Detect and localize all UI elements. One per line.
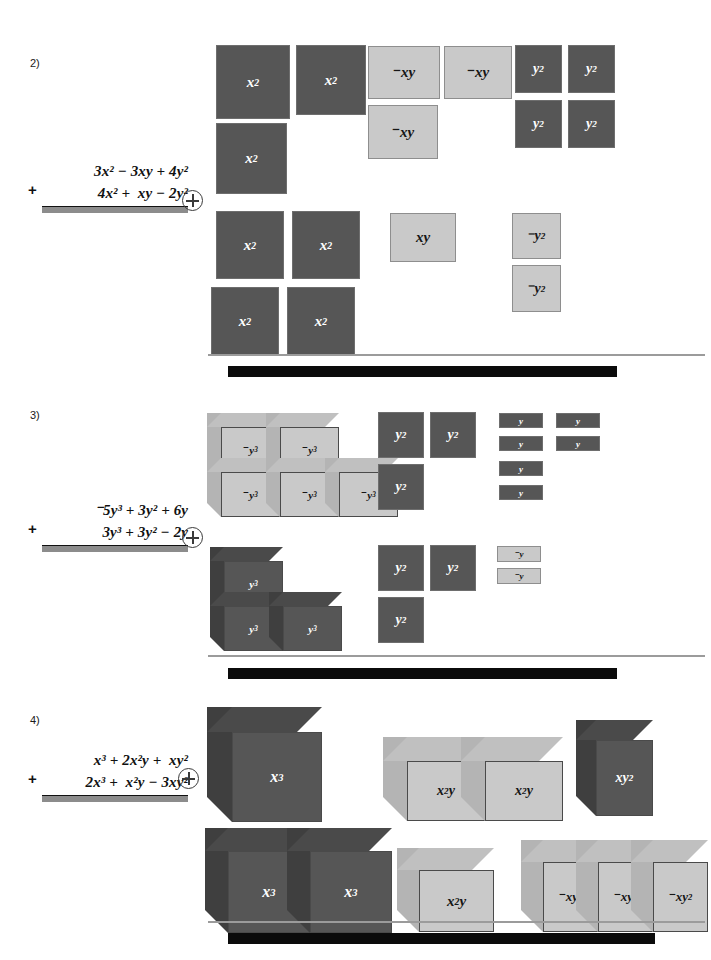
- algebra-block[interactable]: xy2: [576, 720, 653, 816]
- block-front-face: y3: [283, 606, 342, 651]
- expression-answer-bar-2: [42, 206, 188, 213]
- algebra-tile[interactable]: ⁻y: [497, 546, 541, 562]
- algebra-tile[interactable]: xy: [390, 213, 456, 262]
- algebra-tile[interactable]: y2: [378, 412, 424, 458]
- expression-answer-bar-4: [42, 795, 188, 802]
- block-front-face: xy2: [596, 740, 653, 816]
- circled-plus-icon-3: [182, 527, 203, 548]
- problem-number-3: 3): [30, 409, 40, 421]
- algebra-tile[interactable]: y: [499, 461, 543, 476]
- algebra-tile[interactable]: ⁻y2: [512, 265, 561, 312]
- expression-bottom-line-4: 2x³ + x²y − 3xy²: [42, 772, 188, 794]
- algebra-tile[interactable]: ⁻xy: [368, 46, 440, 99]
- algebra-tile[interactable]: y2: [378, 597, 424, 643]
- algebra-block[interactable]: x3: [207, 707, 322, 822]
- algebra-tile[interactable]: y2: [515, 100, 562, 148]
- algebra-block[interactable]: x3: [287, 828, 392, 933]
- algebra-tile[interactable]: x2: [296, 45, 366, 115]
- separator-thin-line: [208, 921, 705, 923]
- algebra-tile[interactable]: y2: [378, 545, 424, 591]
- expression-rows: + x³ + 2x²y + xy² 2x³ + x²y − 3xy²: [28, 750, 188, 802]
- worksheet-page: 2) + 3x² − 3xy + 4y² 4x² + xy − 2y² x2x2…: [0, 0, 711, 960]
- expression-block-3: + ⁻5y³ + 3y² + 6y 3y³ + 3y² − 2y: [28, 500, 188, 552]
- block-front-face: x3: [232, 732, 322, 822]
- algebra-tile[interactable]: y2: [378, 464, 424, 510]
- expression-bottom-line-2: 4x² + xy − 2y²: [42, 183, 188, 205]
- algebra-block[interactable]: ⁻xy2: [631, 840, 708, 932]
- separator-thick-bar: [228, 366, 617, 377]
- problem-number-2: 2): [30, 57, 40, 69]
- algebra-tile[interactable]: y: [556, 413, 600, 428]
- algebra-tile[interactable]: y: [556, 436, 600, 451]
- algebra-tile[interactable]: ⁻y: [497, 568, 541, 584]
- expression-answer-bar-3: [42, 545, 188, 552]
- separator-thick-bar: [228, 933, 655, 944]
- expression-block-2: + 3x² − 3xy + 4y² 4x² + xy − 2y²: [28, 161, 188, 213]
- expression-bottom-line-3: 3y³ + 3y² − 2y: [42, 522, 188, 544]
- expression-top-line-3: ⁻5y³ + 3y² + 6y: [42, 500, 188, 522]
- algebra-tile[interactable]: y: [499, 436, 543, 451]
- algebra-block[interactable]: y3: [269, 592, 342, 651]
- block-front-face: x2y: [485, 761, 563, 821]
- algebra-tile[interactable]: ⁻xy: [368, 105, 438, 159]
- algebra-tile[interactable]: x2: [287, 287, 355, 355]
- algebra-tile[interactable]: ⁻xy: [444, 46, 512, 99]
- algebra-tile[interactable]: y2: [430, 545, 476, 591]
- algebra-tile[interactable]: y2: [515, 45, 562, 93]
- expression-plus-sign-2: +: [28, 181, 37, 198]
- expression-top-line-2: 3x² − 3xy + 4y²: [42, 161, 188, 183]
- expression-rows: + 3x² − 3xy + 4y² 4x² + xy − 2y²: [28, 161, 188, 213]
- separator-thin-line: [208, 655, 705, 657]
- algebra-tile[interactable]: x2: [216, 211, 284, 279]
- separator-thin-line: [208, 354, 705, 356]
- algebra-tile[interactable]: y2: [568, 100, 615, 148]
- algebra-tile[interactable]: x2: [211, 287, 279, 355]
- algebra-tile[interactable]: y2: [430, 412, 476, 458]
- algebra-block[interactable]: x2y: [461, 737, 563, 821]
- algebra-tile[interactable]: y2: [568, 45, 615, 93]
- expression-block-4: + x³ + 2x²y + xy² 2x³ + x²y − 3xy²: [28, 750, 188, 802]
- expression-plus-sign-3: +: [28, 520, 37, 537]
- block-front-face: x2y: [419, 870, 494, 932]
- algebra-tile[interactable]: y: [499, 413, 543, 428]
- expression-top-line-4: x³ + 2x²y + xy²: [42, 750, 188, 772]
- algebra-tile[interactable]: x2: [216, 123, 287, 194]
- circled-plus-icon-2: [182, 190, 203, 211]
- separator-thick-bar: [228, 668, 617, 679]
- expression-plus-sign-4: +: [28, 770, 37, 787]
- problem-number-4: 4): [30, 714, 40, 726]
- algebra-tile[interactable]: y: [499, 485, 543, 500]
- algebra-tile[interactable]: x2: [292, 211, 360, 279]
- expression-rows: + ⁻5y³ + 3y² + 6y 3y³ + 3y² − 2y: [28, 500, 188, 552]
- algebra-tile[interactable]: ⁻y2: [512, 213, 561, 259]
- circled-plus-icon-4: [178, 768, 199, 789]
- algebra-block[interactable]: x2y: [397, 848, 494, 932]
- algebra-tile[interactable]: x2: [216, 45, 290, 119]
